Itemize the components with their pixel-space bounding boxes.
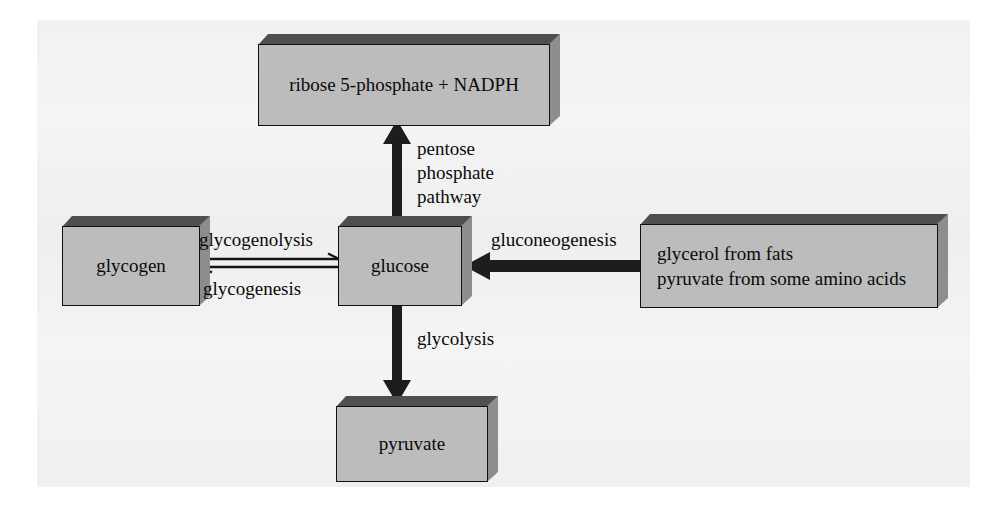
node-label-pyruvate: pyruvate (379, 431, 445, 456)
box-front-face: glycogen (62, 226, 200, 306)
label-pentose-phosphate-pathway-line1: pentose (417, 137, 475, 161)
label-glycogenesis: glycogenesis (203, 277, 301, 301)
arrow-glycolysis (382, 296, 412, 406)
box-side-face (487, 396, 498, 482)
diagram-canvas: ribose 5-phosphate + NADPH glycogen gluc… (0, 0, 1004, 516)
box-front-face: glucose (338, 226, 462, 306)
box-front-face: pyruvate (336, 406, 488, 482)
node-ribose-5-phosphate: ribose 5-phosphate + NADPH (258, 34, 560, 126)
node-glucose: glucose (338, 216, 472, 306)
box-front-face: ribose 5-phosphate + NADPH (258, 44, 550, 126)
label-pentose-phosphate-pathway-line3: pathway (417, 185, 481, 209)
node-label-ribose: ribose 5-phosphate + NADPH (289, 72, 519, 97)
box-front-face: glycerol from fats pyruvate from some am… (640, 224, 938, 308)
arrow-pentose-phosphate-pathway (382, 118, 412, 230)
box-side-face (937, 214, 948, 308)
label-glycolysis: glycolysis (417, 327, 494, 351)
arrow-glycogen-equilibrium (198, 252, 342, 274)
label-glycogenolysis: glycogenolysis (199, 228, 313, 252)
label-pentose-phosphate-pathway-line2: phosphate (417, 161, 494, 185)
node-label-glycogen: glycogen (96, 253, 166, 278)
node-gluconeogenic-precursors: glycerol from fats pyruvate from some am… (640, 214, 948, 308)
node-label-precursors-line2: pyruvate from some amino acids (641, 266, 906, 291)
arrow-gluconeogenesis (462, 250, 662, 282)
node-pyruvate: pyruvate (336, 396, 498, 482)
box-side-face (549, 34, 560, 126)
node-glycogen: glycogen (62, 216, 210, 306)
label-gluconeogenesis: gluconeogenesis (491, 228, 617, 252)
node-label-precursors-line1: glycerol from fats (641, 241, 793, 266)
box-side-face (461, 216, 472, 306)
node-label-glucose: glucose (371, 253, 429, 278)
